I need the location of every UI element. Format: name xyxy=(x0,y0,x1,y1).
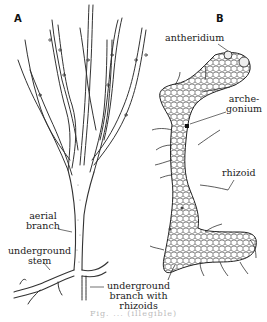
label-arch-line2: gonium xyxy=(226,104,262,114)
label-aerial-branch: aerial branch xyxy=(26,211,60,231)
label-ustem-line2: stem xyxy=(8,256,71,266)
botanical-figure: A B aerial branch underground stem under… xyxy=(0,0,267,322)
label-aerial-line2: branch xyxy=(26,221,60,231)
label-underground-branch: underground branch with rhizoids xyxy=(107,281,170,311)
gametophyte-drawing xyxy=(150,44,256,280)
label-underground-stem: underground stem xyxy=(8,246,71,266)
label-archegonium: arche- gonium xyxy=(226,94,262,114)
plant-drawing xyxy=(0,0,267,322)
panel-label-b: B xyxy=(216,13,224,24)
label-rhizoid: rhizoid xyxy=(222,168,256,178)
label-antheridium: antheridium xyxy=(165,33,224,43)
figure-caption: Fig. ... (illegible) xyxy=(0,309,267,318)
panel-label-a: A xyxy=(14,13,22,24)
